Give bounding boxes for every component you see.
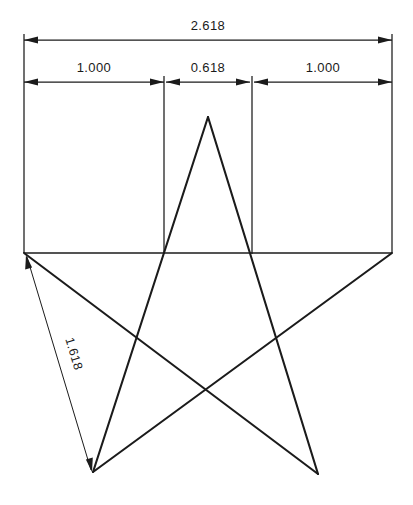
dimension-right: 1.000 [254, 60, 392, 86]
arrow-right-overall-icon [378, 36, 392, 43]
dimension-label-right: 1.000 [306, 60, 341, 75]
dimension-label-diagonal: 1.618 [62, 336, 85, 372]
pentagram-star [24, 117, 392, 474]
dimension-middle: 0.618 [166, 60, 250, 86]
diagram-root: 2.618 1.000 0.618 1.000 [0, 0, 413, 505]
arrow-left-overall-icon [24, 36, 38, 43]
star-edge-right-bottomleft [93, 253, 392, 472]
arrow-right-rightspan-icon [378, 78, 392, 85]
dimension-label-middle: 0.618 [191, 60, 226, 75]
star-edge-apex-bottomright [208, 117, 318, 474]
arrow-left-rightspan-icon [254, 78, 268, 85]
arrow-bottom-diagonal-icon [86, 457, 93, 472]
dimension-label-left: 1.000 [77, 60, 112, 75]
dimension-diagonal: 1.618 [25, 255, 93, 472]
dimension-label-overall: 2.618 [191, 18, 226, 33]
star-edge-left-bottomright [24, 253, 318, 474]
arrow-left-middlespan-icon [166, 78, 180, 85]
arrow-left-leftspan-icon [24, 78, 38, 85]
star-edge-apex-bottomleft [93, 117, 208, 472]
arrow-right-leftspan-icon [150, 78, 164, 85]
dimension-left: 1.000 [24, 60, 164, 86]
pentagram-diagram: 2.618 1.000 0.618 1.000 [0, 0, 413, 505]
arrow-right-middlespan-icon [236, 78, 250, 85]
dimension-overall: 2.618 [24, 18, 392, 44]
